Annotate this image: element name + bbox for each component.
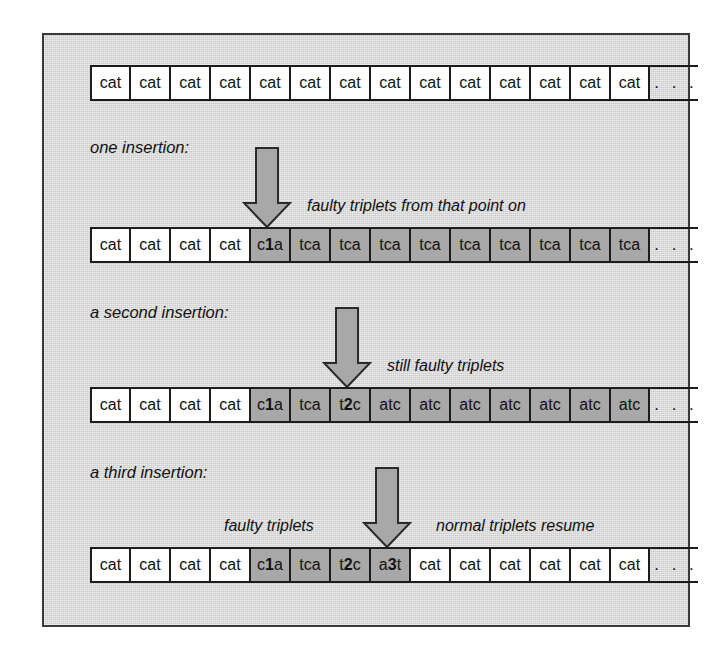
sequence-cell: tca bbox=[290, 387, 330, 423]
sequence-cell: cat bbox=[490, 65, 530, 101]
sequence-cell: cat bbox=[210, 387, 250, 423]
sequence-row-original: cat cat cat cat cat cat cat cat cat cat … bbox=[90, 65, 698, 101]
annotation-still-faulty: still faulty triplets bbox=[387, 357, 504, 375]
sequence-cell: cat bbox=[490, 547, 530, 583]
sequence-cell-insertion: t2c bbox=[330, 547, 370, 583]
row-label-third-insertion: a third insertion: bbox=[90, 463, 207, 482]
sequence-cell: cat bbox=[370, 65, 410, 101]
sequence-cell: cat bbox=[170, 227, 210, 263]
sequence-cell-insertion: c1a bbox=[250, 547, 290, 583]
sequence-cell: cat bbox=[170, 65, 210, 101]
sequence-cell-insertion: t2c bbox=[330, 387, 370, 423]
annotation-faulty-from-point-on: faulty triplets from that point on bbox=[307, 197, 526, 215]
sequence-cell: cat bbox=[250, 65, 290, 101]
sequence-cell: cat bbox=[130, 65, 170, 101]
sequence-cell: cat bbox=[130, 387, 170, 423]
sequence-cell: cat bbox=[610, 547, 650, 583]
sequence-cell: atc bbox=[490, 387, 530, 423]
sequence-cell: atc bbox=[570, 387, 610, 423]
sequence-cell-insertion: c1a bbox=[250, 227, 290, 263]
sequence-cell: atc bbox=[410, 387, 450, 423]
sequence-cell: tca bbox=[530, 227, 570, 263]
sequence-cell: atc bbox=[450, 387, 490, 423]
sequence-cell: tca bbox=[290, 227, 330, 263]
sequence-cell: atc bbox=[370, 387, 410, 423]
sequence-cell-insertion: a3t bbox=[370, 547, 410, 583]
sequence-cell: atc bbox=[530, 387, 570, 423]
sequence-cell: tca bbox=[370, 227, 410, 263]
insertion-arrow-3-icon bbox=[362, 467, 412, 549]
sequence-cell: cat bbox=[450, 547, 490, 583]
insertion-arrow-2-icon bbox=[322, 307, 372, 389]
sequence-cell: tca bbox=[410, 227, 450, 263]
annotation-faulty-triplets: faulty triplets bbox=[224, 517, 314, 535]
frameshift-mutation-figure: cat cat cat cat cat cat cat cat cat cat … bbox=[0, 0, 722, 667]
sequence-cell: cat bbox=[210, 227, 250, 263]
sequence-cell: cat bbox=[90, 547, 130, 583]
sequence-cell: tca bbox=[490, 227, 530, 263]
sequence-cell: tca bbox=[570, 227, 610, 263]
sequence-cell: atc bbox=[610, 387, 650, 423]
sequence-cell: cat bbox=[170, 387, 210, 423]
sequence-cell: cat bbox=[570, 547, 610, 583]
sequence-ellipsis: . . . bbox=[650, 387, 698, 423]
sequence-cell: cat bbox=[170, 547, 210, 583]
sequence-row-third-insertion: cat cat cat cat c1a tca t2c a3t cat cat … bbox=[90, 547, 698, 583]
sequence-cell: cat bbox=[210, 65, 250, 101]
sequence-cell: cat bbox=[610, 65, 650, 101]
sequence-cell: cat bbox=[570, 65, 610, 101]
sequence-cell: cat bbox=[330, 65, 370, 101]
sequence-cell: cat bbox=[130, 227, 170, 263]
sequence-cell: tca bbox=[610, 227, 650, 263]
row-label-second-insertion: a second insertion: bbox=[90, 303, 229, 322]
sequence-ellipsis: . . . bbox=[650, 227, 698, 263]
sequence-cell: cat bbox=[210, 547, 250, 583]
sequence-ellipsis: . . . bbox=[650, 65, 698, 101]
sequence-cell: cat bbox=[410, 65, 450, 101]
sequence-cell: tca bbox=[450, 227, 490, 263]
sequence-cell-insertion: c1a bbox=[250, 387, 290, 423]
sequence-cell: tca bbox=[290, 547, 330, 583]
sequence-cell: cat bbox=[290, 65, 330, 101]
sequence-cell: cat bbox=[90, 227, 130, 263]
sequence-cell: cat bbox=[90, 65, 130, 101]
sequence-cell: tca bbox=[330, 227, 370, 263]
figure-panel: cat cat cat cat cat cat cat cat cat cat … bbox=[42, 33, 690, 627]
insertion-arrow-1-icon bbox=[242, 147, 292, 229]
sequence-ellipsis: . . . bbox=[650, 547, 698, 583]
annotation-normal-resume: normal triplets resume bbox=[436, 517, 594, 535]
sequence-cell: cat bbox=[90, 387, 130, 423]
sequence-cell: cat bbox=[130, 547, 170, 583]
sequence-row-second-insertion: cat cat cat cat c1a tca t2c atc atc atc … bbox=[90, 387, 698, 423]
sequence-row-one-insertion: cat cat cat cat c1a tca tca tca tca tca … bbox=[90, 227, 698, 263]
sequence-cell: cat bbox=[410, 547, 450, 583]
sequence-cell: cat bbox=[530, 65, 570, 101]
sequence-cell: cat bbox=[530, 547, 570, 583]
sequence-cell: cat bbox=[450, 65, 490, 101]
row-label-one-insertion: one insertion: bbox=[90, 138, 189, 157]
